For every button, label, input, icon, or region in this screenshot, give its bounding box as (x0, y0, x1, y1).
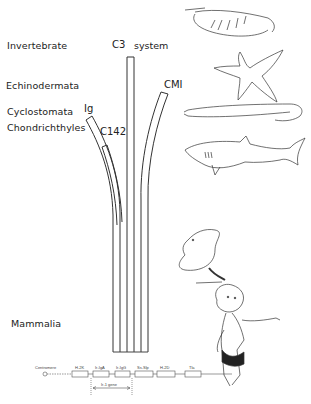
diagram-canvas: Centromere H-2K Ir-IgA Ir-IgG Ss-Slp H-2… (0, 0, 311, 404)
taxon-chondrichthyles: Chondrichthyles (7, 122, 86, 133)
locus-h2k: H-2K (75, 365, 84, 370)
label-c142: C142 (100, 126, 126, 137)
locus-iriga: Ir-IgA (95, 365, 105, 370)
label-system: system (134, 40, 168, 51)
taxon-echinodermata: Echinodermata (6, 80, 79, 91)
shark-illustration (185, 136, 305, 175)
starfish-illustration (214, 50, 283, 102)
mouse-illustration (179, 229, 225, 283)
child-illustration (216, 284, 280, 386)
label-cmi: CMI (164, 79, 183, 90)
locus-irigg: Ir-IgG (116, 365, 126, 370)
ir1-gene-label: Ir-1 gene (101, 382, 118, 387)
centromere-label: Centromere (35, 365, 57, 370)
taxon-invertebrate: Invertebrate (7, 40, 67, 51)
locus-ssslp: Ss-Slp (137, 365, 150, 370)
lamprey-illustration (184, 104, 302, 121)
taxon-mammalia: Mammalia (11, 318, 61, 329)
locus-h2d: H-2D (160, 365, 169, 370)
label-c3: C3 (112, 39, 125, 50)
c142-tube (102, 145, 122, 225)
taxon-cyclostomata: Cyclostomata (7, 106, 73, 117)
cmi-tube (141, 92, 168, 352)
shrimp-illustration (185, 8, 274, 36)
c3-tube (127, 57, 134, 352)
label-ig: Ig (84, 103, 93, 114)
gene-map (43, 371, 232, 395)
locus-tla: Tla (189, 365, 195, 370)
